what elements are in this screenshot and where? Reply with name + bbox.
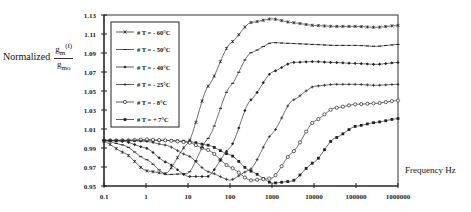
y-tick-label: 1.01 <box>84 126 97 134</box>
marker-diamond <box>372 63 375 66</box>
x-tick-label: 100 <box>225 193 236 201</box>
y-tick-label: 0.99 <box>84 145 97 153</box>
y-tick-label: 1.03 <box>84 107 97 115</box>
marker-square <box>378 121 381 124</box>
marker-circle <box>286 155 289 158</box>
marker-square <box>323 148 326 151</box>
marker-star <box>176 156 179 159</box>
marker-circle <box>292 150 295 153</box>
marker-circle <box>274 174 277 177</box>
y-tick-label: 0.95 <box>84 183 97 191</box>
marker-square <box>317 157 320 160</box>
marker-square <box>286 180 289 183</box>
marker-square <box>231 155 234 158</box>
y-axis-label: Normalized gm(f) gmo <box>3 41 73 73</box>
marker-star <box>243 25 246 28</box>
marker-star <box>109 143 112 146</box>
marker-diamond <box>145 147 148 150</box>
marker-circle <box>354 103 357 106</box>
marker-star <box>188 139 191 142</box>
x-tick-label: 100000 <box>346 193 368 201</box>
marker-star <box>237 33 240 36</box>
marker-diamond <box>188 175 191 178</box>
y-tick-label: 1.09 <box>84 50 97 58</box>
marker-plus <box>311 85 314 88</box>
marker-star <box>213 74 216 77</box>
marker-circle <box>347 104 350 107</box>
marker-circle <box>194 143 197 146</box>
marker-circle <box>123 100 126 103</box>
marker-square <box>372 121 375 124</box>
marker-circle <box>170 139 173 142</box>
marker-star <box>194 121 197 124</box>
marker-square <box>237 160 240 163</box>
marker-circle <box>182 140 185 143</box>
marker-plus <box>213 172 216 175</box>
marker-circle <box>262 178 265 181</box>
marker-plus <box>262 146 265 149</box>
marker-plus <box>384 83 387 86</box>
marker-diamond <box>366 62 369 65</box>
marker-diamond <box>390 61 393 64</box>
marker-square <box>299 174 302 177</box>
marker-plus <box>323 84 326 87</box>
legend-label: # T = + 7°C <box>137 116 169 123</box>
marker-diamond <box>286 62 289 65</box>
y-tick-label: 1.13 <box>84 12 97 20</box>
marker-star <box>231 40 234 43</box>
marker-circle <box>176 140 179 143</box>
marker-diamond <box>194 175 197 178</box>
marker-diamond <box>323 60 326 63</box>
marker-square <box>348 128 351 131</box>
marker-circle <box>213 152 216 155</box>
marker-plus <box>280 116 283 119</box>
marker-star <box>170 166 173 169</box>
x-tick-label: 1000000 <box>386 193 411 201</box>
marker-circle <box>249 179 252 182</box>
marker-diamond <box>280 66 283 69</box>
marker-diamond <box>354 62 357 65</box>
marker-diamond <box>341 61 344 64</box>
marker-plus <box>329 83 332 86</box>
marker-plus <box>348 83 351 86</box>
marker-circle <box>237 171 240 174</box>
legend: # T = - 60°C# T = - 50°C# T = - 40°C# T … <box>111 22 179 127</box>
marker-plus <box>360 83 363 86</box>
marker-star <box>207 85 210 88</box>
marker-diamond <box>292 61 295 64</box>
marker-square <box>341 132 344 135</box>
marker-circle <box>335 106 338 109</box>
marker-circle <box>158 139 161 142</box>
y-num-suffix: (f) <box>65 42 72 50</box>
marker-square <box>213 146 216 149</box>
marker-circle <box>243 176 246 179</box>
marker-diamond <box>237 126 240 129</box>
y-label-numerator: gm(f) <box>54 41 73 59</box>
marker-square <box>311 162 314 165</box>
marker-plus <box>335 83 338 86</box>
marker-square <box>329 140 332 143</box>
legend-label: # T = - 50°C <box>137 46 171 53</box>
marker-diamond <box>347 62 350 65</box>
y-den-sub: mo <box>61 64 70 72</box>
marker-circle <box>151 138 154 141</box>
marker-plus <box>164 144 167 147</box>
marker-circle <box>225 163 228 166</box>
marker-star <box>139 166 142 169</box>
marker-diamond <box>200 175 203 178</box>
marker-square <box>366 123 369 126</box>
line-chart: 0.950.970.991.011.031.051.071.091.111.13… <box>0 0 471 212</box>
y-tick-label: 1.05 <box>84 88 97 96</box>
marker-square <box>207 144 210 147</box>
y-label-denominator: gmo <box>57 59 70 73</box>
y-label-prefix: Normalized <box>3 51 50 62</box>
marker-plus <box>390 83 393 86</box>
legend-box <box>111 22 179 127</box>
marker-plus <box>231 178 234 181</box>
x-axis-label: Frequency Hz <box>405 165 456 175</box>
marker-star <box>182 146 185 149</box>
marker-circle <box>341 105 344 108</box>
marker-star <box>219 60 222 63</box>
marker-square <box>354 125 357 128</box>
marker-circle <box>323 113 326 116</box>
